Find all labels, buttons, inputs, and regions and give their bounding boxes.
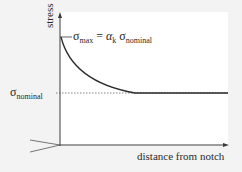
notch-line-lower — [30, 145, 60, 152]
notch-line-upper — [30, 140, 60, 145]
sigma-nominal-label: σnominal — [10, 86, 43, 101]
x-axis-arrow-icon — [223, 143, 229, 147]
y-axis-arrow-icon — [58, 12, 62, 18]
x-axis-label: distance from notch — [137, 151, 224, 162]
stress-curve — [61, 37, 228, 93]
y-axis-label: stress — [44, 4, 55, 28]
sigma-max-label: σmax = αk σnominal — [73, 30, 152, 45]
